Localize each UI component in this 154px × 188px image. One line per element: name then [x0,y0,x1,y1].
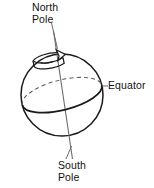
equator-label: Equator [108,80,145,92]
rotation-arrow-group [32,48,68,72]
north-pole-label-line2: Pole [32,14,58,26]
north-pole-label: North Pole [32,2,58,25]
south-pole-label-line1: South [58,159,86,171]
north-pole-leader-line [52,23,58,49]
south-pole-label-line2: Pole [58,172,86,184]
equator-label-text: Equator [108,79,145,91]
diagram-canvas: North Pole Equator South Pole [0,0,154,188]
north-pole-label-line1: North [32,1,58,13]
south-pole-label: South Pole [58,160,86,183]
globe-outline-circle [21,54,103,136]
south-pole-leader-line [66,146,72,159]
rotation-arrow-back-arc [32,52,57,61]
